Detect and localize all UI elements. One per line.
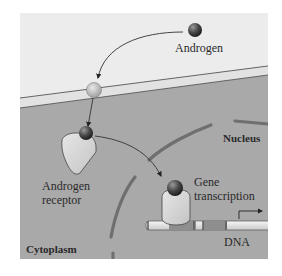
androgen-label: Androgen	[175, 41, 223, 55]
androgen-signaling-diagram: Androgen Nucleus Androgen receptor Gene …	[0, 0, 282, 276]
membrane-transport-icon	[87, 83, 102, 98]
receptor-label-line1: Androgen	[42, 179, 90, 193]
gene-label-line1: Gene	[194, 175, 219, 189]
androgen-molecule-icon	[188, 23, 202, 37]
cytoplasm-label: Cytoplasm	[26, 243, 77, 255]
dna-label: DNA	[224, 235, 250, 249]
receptor-label-line2: receptor	[42, 193, 81, 207]
nucleus-label: Nucleus	[223, 132, 261, 144]
gene-label-line2: transcription	[194, 189, 255, 203]
bound-androgen-icon	[79, 126, 93, 140]
dna-bound-androgen-icon	[167, 180, 183, 196]
